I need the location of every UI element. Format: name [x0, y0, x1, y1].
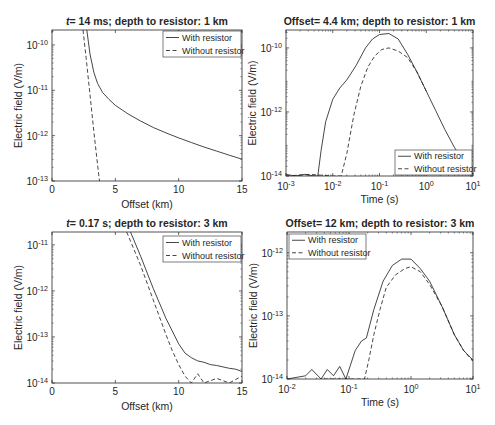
legend: With resistorWithout resistor [289, 234, 371, 259]
y-tick-label: 10-11 [27, 83, 48, 96]
x-tick-label: 101 [465, 382, 480, 395]
x-tick-label: 10 [173, 386, 185, 397]
legend-label: With resistor [182, 238, 232, 248]
x-tick-label: 10-2 [324, 179, 342, 192]
y-axis-label: Electric field (V/m) [247, 263, 259, 348]
y-tick-label: 10-10 [260, 41, 282, 54]
legend: With resistorWithout resistor [395, 150, 477, 175]
legend-label: Without resistor [414, 164, 477, 174]
x-tick-label: 5 [113, 184, 119, 195]
legend-label: With resistor [308, 235, 358, 245]
x-axis-label: Time (s) [360, 193, 398, 205]
chart-title: t= 14 ms; depth to resistor: 1 km [66, 15, 228, 27]
x-tick-label: 10-1 [340, 382, 358, 395]
x-tick-label: 0 [49, 386, 55, 397]
y-tick-label: 10-11 [27, 238, 48, 251]
x-axis-label: Offset (km) [121, 198, 173, 210]
x-axis-label: Offset (km) [121, 400, 173, 412]
chart-title: t= 0.17 s; depth to resistor: 3 km [66, 217, 227, 229]
y-tick-label: 10-14 [26, 376, 48, 389]
legend-label: Without resistor [182, 46, 245, 56]
x-tick-label: 10-3 [277, 179, 295, 192]
x-tick-label: 10-2 [278, 382, 296, 395]
x-axis-label: Time (s) [361, 396, 399, 408]
chart-title: Offset= 12 km; depth to resistor: 3 km [286, 217, 475, 229]
x-tick-label: 100 [403, 382, 418, 395]
y-tick-label: 10-12 [26, 129, 48, 142]
y-tick-label: 10-13 [26, 174, 48, 187]
legend-label: Without resistor [308, 248, 371, 258]
chart-panel-d: Offset= 12 km; depth to resistor: 3 km10… [247, 217, 481, 408]
x-tick-label: 15 [236, 386, 248, 397]
y-tick-label: 10-13 [261, 309, 283, 322]
y-tick-label: 10-12 [26, 284, 48, 297]
chart-panel-c: t= 0.17 s; depth to resistor: 3 km051015… [12, 217, 248, 412]
x-tick-label: 100 [419, 179, 434, 192]
x-tick-label: 10-1 [371, 179, 389, 192]
y-axis-label: Electric field (V/m) [246, 60, 258, 145]
x-tick-label: 5 [113, 386, 119, 397]
legend: With resistorWithout resistor [163, 31, 245, 57]
chart-panel-a: t= 14 ms; depth to resistor: 1 km0510151… [12, 15, 248, 210]
chart-panel-b: Offset= 4.4 km; depth to resistor: 1 km1… [246, 15, 481, 205]
figure: t= 14 ms; depth to resistor: 1 km0510151… [0, 0, 495, 425]
legend-label: With resistor [414, 151, 464, 161]
y-tick-label: 10-12 [261, 246, 283, 259]
legend-label: Without resistor [182, 251, 245, 261]
y-axis-label: Electric field (V/m) [12, 265, 24, 350]
x-tick-label: 10 [173, 184, 185, 195]
legend: With resistorWithout resistor [163, 236, 245, 262]
x-tick-label: 15 [236, 184, 248, 195]
legend-label: With resistor [182, 33, 232, 43]
y-tick-label: 10-12 [260, 105, 282, 118]
chart-title: Offset= 4.4 km; depth to resistor: 1 km [284, 15, 476, 27]
y-tick-label: 10-13 [26, 330, 48, 343]
y-axis-label: Electric field (V/m) [12, 63, 24, 148]
y-tick-label: 10-10 [26, 38, 48, 51]
x-tick-label: 101 [465, 179, 480, 192]
x-tick-label: 0 [49, 184, 55, 195]
